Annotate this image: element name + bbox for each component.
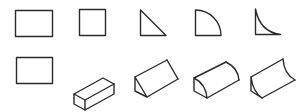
concave-fillet-profile [256, 9, 281, 35]
quarter-cylinder-solid [194, 62, 239, 98]
quarter-circle-profile [196, 10, 222, 36]
triangular-prism-solid [135, 60, 178, 97]
shapes-diagram [0, 0, 307, 112]
square-profile [80, 10, 106, 36]
rectangular-box-solid [74, 78, 114, 110]
concave-fillet-solid [251, 59, 295, 98]
right-triangle-profile [141, 10, 167, 36]
rectangle-profile [16, 11, 53, 37]
diagram-svg [0, 0, 307, 112]
rectangle-flat [17, 58, 53, 84]
